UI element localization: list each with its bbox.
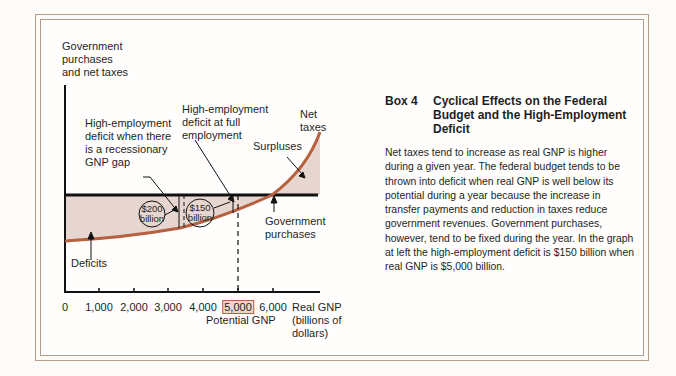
x-tick: 0 bbox=[62, 301, 68, 313]
annotation-full-employment: High-employment deficit at full employme… bbox=[182, 103, 268, 142]
annotation-line: is a recessionary bbox=[85, 143, 171, 156]
annotation-line: deficit when there bbox=[85, 130, 171, 143]
box-title: Cyclical Effects on the Federal Budget a… bbox=[433, 94, 633, 136]
annotation-line: GNP gap bbox=[85, 156, 171, 169]
box-number: Box 4 bbox=[385, 94, 418, 108]
x-tick: 3,000 bbox=[154, 301, 182, 313]
deficits-label: Deficits bbox=[71, 257, 107, 270]
annotation-line: High-employment bbox=[182, 103, 268, 116]
deficit-200-label: $200 billion bbox=[140, 204, 164, 224]
x-tick: 1,000 bbox=[85, 301, 113, 313]
potential-gnp-label: Potential GNP bbox=[206, 314, 276, 327]
y-label-line: Government bbox=[62, 40, 128, 53]
x-tick: 6,000 bbox=[259, 301, 287, 313]
deficit-region bbox=[65, 195, 272, 241]
y-label-line: and net taxes bbox=[62, 66, 128, 79]
annotation-line: High-employment bbox=[85, 117, 171, 130]
government-purchases-label: Government purchases bbox=[265, 215, 326, 241]
deficit-150-label: $150 billion bbox=[188, 203, 212, 223]
net-taxes-label: Net taxes bbox=[300, 108, 326, 134]
x-tick-potential: 5,000 bbox=[222, 300, 254, 314]
y-label-line: purchases bbox=[62, 53, 128, 66]
label-line: Government bbox=[265, 215, 326, 228]
y-axis-label: Government purchases and net taxes bbox=[62, 40, 128, 79]
box-body: Net taxes tend to increase as real GNP i… bbox=[385, 146, 637, 275]
x-tick: 2,000 bbox=[120, 301, 148, 313]
label-line: taxes bbox=[300, 121, 326, 134]
x-label-line: (billions of bbox=[292, 314, 342, 327]
circle-line: billion bbox=[140, 214, 164, 224]
x-label-line: Real GNP bbox=[292, 301, 342, 314]
x-label-line: dollars) bbox=[292, 327, 342, 340]
x-axis-label: Real GNP (billions of dollars) bbox=[292, 301, 342, 340]
label-line: purchases bbox=[265, 228, 326, 241]
circle-line: billion bbox=[188, 213, 212, 223]
x-tick: 4,000 bbox=[189, 301, 217, 313]
annotation-recessionary-gap: High-employment deficit when there is a … bbox=[85, 117, 171, 169]
annotation-line: deficit at full bbox=[182, 116, 268, 129]
label-line: Net bbox=[300, 108, 326, 121]
surpluses-label: Surpluses bbox=[253, 140, 302, 153]
